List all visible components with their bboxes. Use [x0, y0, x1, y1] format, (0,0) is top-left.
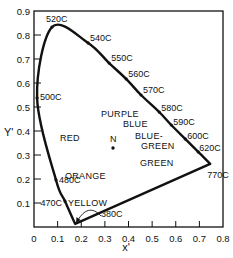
neutral-point [111, 146, 114, 149]
region-label-purple: PURPLE [101, 109, 139, 119]
y-tick-label: 0.9 [17, 6, 30, 17]
locus-label-380c: 380C [101, 209, 123, 219]
y-tick-label: 0.4 [17, 126, 30, 137]
x-tick-label: 0 [31, 233, 36, 244]
x-tick-label: 0.7 [193, 233, 206, 244]
y-tick-label: 0.1 [17, 198, 30, 209]
locus-label-500c: 500C [40, 92, 62, 102]
y-tick-label: 0.7 [17, 54, 30, 65]
x-tick-label: 0.6 [169, 233, 182, 244]
locus-label-540c: 540C [90, 33, 112, 43]
locus-point-500c [35, 96, 38, 99]
locus-label-550c: 550C [111, 53, 133, 63]
locus-point-470c [63, 199, 66, 202]
region-label-green: GREEN [140, 158, 174, 168]
locus-label-600c: 600C [187, 131, 209, 141]
region-label-blue-green-2: GREEN [141, 141, 175, 151]
x-axis-title: x' [122, 241, 130, 253]
y-tick-label: 0.5 [17, 102, 30, 113]
region-label-red: RED [60, 133, 80, 143]
locus-point-520c [50, 25, 53, 28]
y-tick-label: 0.6 [17, 78, 30, 89]
x-tick-label: 0.8 [216, 233, 229, 244]
locus-label-580c: 580C [161, 103, 183, 113]
region-label-blue: BLUE [123, 119, 148, 129]
y-axis-title: Y' [4, 126, 13, 138]
locus-point-480c [54, 178, 57, 181]
x-tick-label: 0.5 [146, 233, 159, 244]
x-tick-label: 0.2 [75, 233, 88, 244]
locus-label-470c: 470C [40, 198, 62, 208]
chromaticity-diagram: 00.10.20.30.40.50.60.70.80.10.20.30.40.5… [0, 0, 233, 258]
region-label-blue-green-1: BLUE- [135, 131, 163, 141]
locus-label-590c: 590C [173, 117, 195, 127]
locus-label-520c: 520C [46, 14, 68, 24]
locus-label-570c: 570C [143, 85, 165, 95]
locus-label-560c: 560C [128, 69, 150, 79]
x-tick-label: 0.3 [98, 233, 111, 244]
neutral-point-label: N [110, 134, 117, 144]
y-tick-label: 0.2 [17, 174, 30, 185]
region-label-orange: ORANGE [65, 171, 106, 181]
locus-label-770c: 770C [207, 170, 229, 180]
x-tick-label: 0.1 [51, 233, 64, 244]
region-label-yellow: YELLOW [68, 198, 108, 208]
locus-label-620c: 620C [199, 143, 221, 153]
y-tick-label: 0.8 [17, 30, 30, 41]
y-tick-label: 0.3 [17, 150, 30, 161]
